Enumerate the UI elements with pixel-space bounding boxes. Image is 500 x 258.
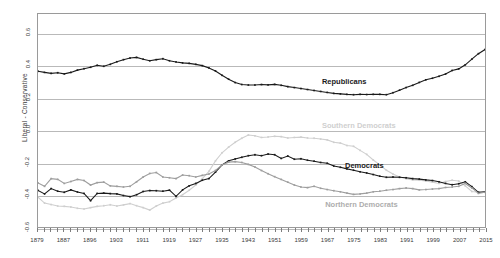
series-marker xyxy=(162,58,164,60)
series-marker xyxy=(478,53,480,55)
x-tick-mark xyxy=(163,228,164,232)
x-tick-label-8: 1943 xyxy=(242,237,255,243)
series-marker xyxy=(366,94,368,96)
series-marker xyxy=(471,191,473,193)
series-marker xyxy=(228,146,230,148)
series-marker xyxy=(294,158,296,160)
x-tick-mark xyxy=(394,228,395,232)
x-tick-mark xyxy=(400,228,401,232)
plot-area: Republicans Southern Democrats Democrats… xyxy=(37,13,486,228)
series-marker xyxy=(63,73,65,75)
series-marker xyxy=(320,138,322,140)
x-tick-label-14: 1991 xyxy=(400,237,413,243)
series-marker xyxy=(399,89,401,91)
y-tick-label-4: -0.2 xyxy=(10,159,32,165)
series-marker xyxy=(464,183,466,185)
series-marker xyxy=(248,84,250,86)
series-marker xyxy=(248,164,250,166)
series-marker xyxy=(386,189,388,191)
series-marker xyxy=(155,205,157,207)
series-marker xyxy=(215,171,217,173)
x-tick-mark xyxy=(367,228,368,232)
series-marker xyxy=(405,87,407,89)
series-svg xyxy=(38,14,485,227)
series-marker xyxy=(267,136,269,138)
series-marker xyxy=(215,160,217,162)
series-marker xyxy=(182,62,184,64)
series-marker xyxy=(274,154,276,156)
series-marker xyxy=(464,64,466,66)
series-marker xyxy=(300,158,302,160)
y-tick-label-2: 0.2 xyxy=(10,94,32,100)
series-marker xyxy=(254,166,256,168)
series-marker xyxy=(208,67,210,69)
series-marker xyxy=(90,200,92,202)
y-tick-label-6: -0.6 xyxy=(10,224,32,230)
x-tick-mark xyxy=(110,228,111,232)
series-marker xyxy=(215,170,217,172)
x-tick-mark xyxy=(361,228,362,232)
x-tick-mark xyxy=(413,228,414,232)
series-marker xyxy=(280,179,282,181)
x-tick-mark xyxy=(209,228,210,232)
series-marker xyxy=(195,183,197,185)
x-tick-mark xyxy=(440,228,441,232)
series-marker xyxy=(208,178,210,180)
x-tick-mark xyxy=(123,228,124,232)
series-label-democrats: Democrats xyxy=(345,161,384,170)
series-marker xyxy=(445,187,447,189)
x-tick-mark xyxy=(308,228,309,232)
series-marker xyxy=(195,184,197,186)
series-marker xyxy=(412,188,414,190)
series-marker xyxy=(109,185,111,187)
series-marker xyxy=(175,197,177,199)
series-marker xyxy=(248,134,250,136)
series-marker xyxy=(261,170,263,172)
series-marker xyxy=(201,65,203,67)
series-marker xyxy=(241,156,243,158)
x-tick-mark xyxy=(354,228,355,232)
x-tick-label-11: 1967 xyxy=(321,237,334,243)
series-marker xyxy=(379,175,381,177)
series-marker xyxy=(241,162,243,164)
series-marker xyxy=(116,61,118,63)
series-marker xyxy=(399,176,401,178)
series-marker xyxy=(274,84,276,86)
series-marker xyxy=(70,206,72,208)
series-marker xyxy=(366,192,368,194)
series-marker xyxy=(464,181,466,183)
x-tick-mark xyxy=(129,228,130,232)
series-marker xyxy=(438,188,440,190)
x-tick-mark xyxy=(380,228,381,232)
series-marker xyxy=(201,179,203,181)
series-marker xyxy=(96,64,98,66)
series-marker xyxy=(313,160,315,162)
x-tick-mark xyxy=(235,228,236,232)
series-marker xyxy=(116,185,118,187)
x-tick-mark xyxy=(295,228,296,232)
series-line xyxy=(38,135,485,210)
series-marker xyxy=(182,174,184,176)
series-marker xyxy=(50,73,52,75)
series-marker xyxy=(142,191,144,193)
series-marker xyxy=(399,188,401,190)
x-tick-mark xyxy=(374,228,375,232)
series-marker xyxy=(63,191,65,193)
series-marker xyxy=(234,161,236,163)
series-marker xyxy=(90,207,92,209)
series-marker xyxy=(182,189,184,191)
series-marker xyxy=(392,92,394,94)
series-marker xyxy=(77,69,79,71)
series-marker xyxy=(320,187,322,189)
series-marker xyxy=(241,84,243,86)
x-tick-mark xyxy=(347,228,348,232)
series-marker xyxy=(109,193,111,195)
series-marker xyxy=(169,201,171,203)
series-marker xyxy=(103,205,105,207)
series-marker xyxy=(412,178,414,180)
series-marker xyxy=(405,187,407,189)
series-marker xyxy=(425,189,427,191)
series-label-northern-democrats: Northern Democrats xyxy=(325,200,398,209)
x-tick-label-17: 2015 xyxy=(479,237,492,243)
x-tick-mark xyxy=(248,228,249,232)
